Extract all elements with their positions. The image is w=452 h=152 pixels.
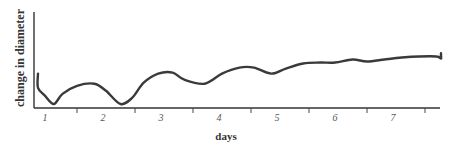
- x-tick-marks: [77, 108, 425, 113]
- series-line: [37, 53, 441, 104]
- x-tick-label: 1: [43, 112, 48, 123]
- y-axis-label: change in diameter: [13, 9, 28, 107]
- x-tick-label: 2: [101, 112, 106, 123]
- x-tick-label: 4: [217, 112, 222, 123]
- x-axis-label: days: [215, 130, 236, 142]
- x-tick-label: 7: [391, 112, 396, 123]
- x-tick-label: 3: [159, 112, 164, 123]
- x-tick-label: 6: [333, 112, 338, 123]
- x-tick-label: 5: [275, 112, 280, 123]
